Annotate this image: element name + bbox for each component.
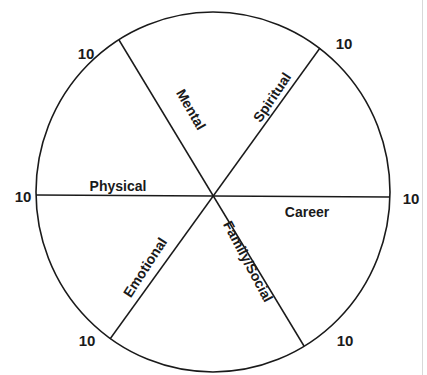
scale-max-label: 10 — [15, 188, 32, 205]
segment-label-family-social: Family/Social — [220, 218, 276, 305]
scale-max-label: 10 — [79, 332, 96, 349]
segment-label-mental: Mental — [173, 86, 209, 132]
segment-label-spiritual: Spiritual — [250, 70, 295, 125]
scale-max-label: 10 — [336, 35, 353, 52]
spoke-line-horizontal — [36, 195, 390, 197]
wheel-of-life-diagram: MentalSpiritualPhysicalCareerEmotionalFa… — [0, 0, 427, 375]
scale-max-label: 10 — [337, 332, 354, 349]
scale-max-label: 10 — [78, 45, 95, 62]
segment-label-physical: Physical — [90, 178, 147, 194]
scale-max-label: 10 — [403, 190, 420, 207]
segment-label-career: Career — [285, 204, 330, 220]
